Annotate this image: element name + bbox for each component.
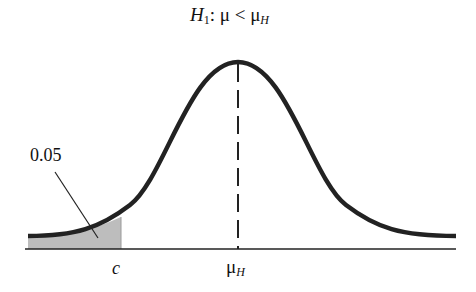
significance-level-label: 0.05: [30, 145, 62, 166]
critical-value-label: c: [112, 258, 120, 279]
normal-curve: [28, 62, 456, 236]
mean-label: μH: [226, 256, 245, 280]
normal-distribution-diagram: [0, 0, 476, 292]
hypothesis-relation-subscript: H: [260, 13, 269, 27]
mean-subscript: H: [236, 265, 245, 279]
hypothesis-title: H1: μ < μH: [190, 4, 269, 28]
hypothesis-relation: : μ < μ: [210, 4, 261, 25]
mean-symbol: μ: [226, 256, 236, 277]
hypothesis-symbol: H: [190, 4, 204, 25]
region-label-leader: [55, 172, 98, 238]
